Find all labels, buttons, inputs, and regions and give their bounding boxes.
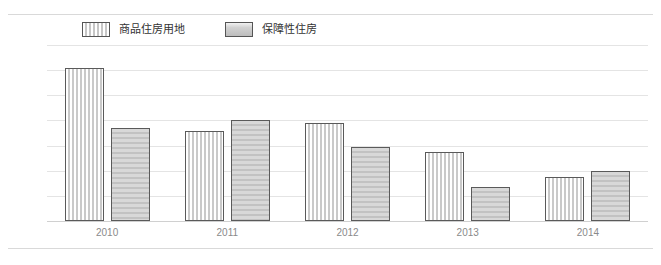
bar-chart: 商品住房用地 保障性住房 010203040506070 20102011201… bbox=[0, 0, 661, 265]
x-axis-labels: 20102011201220132014 bbox=[47, 228, 648, 238]
x-tick-label: 2011 bbox=[167, 228, 287, 238]
striped-swatch-icon bbox=[82, 22, 110, 37]
bar[interactable] bbox=[351, 147, 390, 221]
x-tick-label: 2013 bbox=[408, 228, 528, 238]
bar-group bbox=[47, 45, 167, 221]
bar[interactable] bbox=[65, 68, 104, 221]
gridline bbox=[47, 221, 648, 222]
bar-group bbox=[287, 45, 407, 221]
bar[interactable] bbox=[305, 123, 344, 221]
bar-group bbox=[408, 45, 528, 221]
bar-group bbox=[167, 45, 287, 221]
legend-label-0: 商品住房用地 bbox=[119, 24, 185, 35]
bar[interactable] bbox=[111, 128, 150, 221]
legend-label-1: 保障性住房 bbox=[262, 24, 317, 35]
chart-legend: 商品住房用地 保障性住房 bbox=[82, 22, 317, 37]
legend-item-1[interactable]: 保障性住房 bbox=[225, 22, 317, 37]
x-tick-label: 2014 bbox=[528, 228, 648, 238]
x-tick-label: 2010 bbox=[47, 228, 167, 238]
x-tick-label: 2012 bbox=[287, 228, 407, 238]
bar[interactable] bbox=[471, 187, 510, 221]
bar[interactable] bbox=[231, 120, 270, 221]
bottom-divider bbox=[8, 248, 653, 249]
plot-area: 010203040506070 bbox=[47, 45, 648, 221]
bar[interactable] bbox=[591, 171, 630, 221]
legend-item-0[interactable]: 商品住房用地 bbox=[82, 22, 185, 37]
bar[interactable] bbox=[545, 177, 584, 221]
bar-group bbox=[528, 45, 648, 221]
top-divider bbox=[8, 14, 653, 15]
bar-groups bbox=[47, 45, 648, 221]
solid-swatch-icon bbox=[225, 22, 253, 37]
bar[interactable] bbox=[425, 152, 464, 221]
bar[interactable] bbox=[185, 131, 224, 222]
